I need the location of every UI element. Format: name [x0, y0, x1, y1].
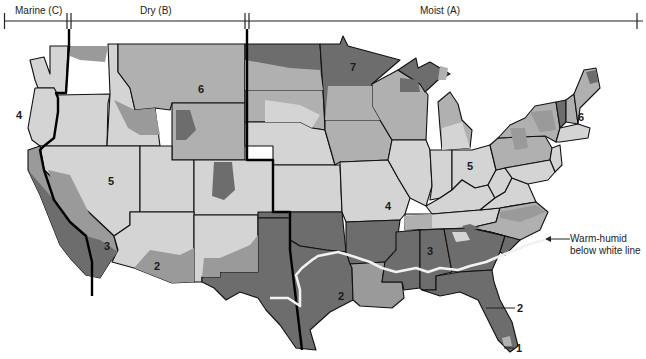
patch-e-washington — [70, 46, 108, 62]
state-montana — [118, 44, 245, 110]
zone-label-marine: Marine (C) — [15, 5, 62, 16]
zone-label-alabama: 3 — [427, 245, 433, 257]
zone-label-nevada: 5 — [108, 175, 114, 187]
zone-label-moist: Moist (A) — [420, 5, 460, 16]
zone-label-ohio: 5 — [467, 160, 473, 172]
zone-label-minnesota: 7 — [350, 61, 356, 73]
zone-label-texas: 2 — [338, 290, 344, 302]
state-iowa — [325, 120, 392, 165]
callout-label-1: 1 — [516, 342, 522, 354]
climate-header: Marine (C) Dry (B) Moist (A) — [4, 5, 643, 29]
warm-humid-annotation: Warm-humid below white line — [545, 233, 641, 256]
zone-label-so-cal: 3 — [104, 240, 110, 252]
patch-tn-west — [404, 214, 432, 230]
zone-label-montana: 6 — [198, 83, 204, 95]
callout-label-2: 2 — [517, 302, 523, 314]
state-kansas — [273, 165, 342, 212]
annotation-line-1: Warm-humid — [570, 233, 627, 244]
arrow-icon — [545, 236, 551, 242]
climate-zone-map: Marine (C) Dry (B) Moist (A) — [0, 0, 646, 359]
annotation-line-2: below white line — [570, 245, 641, 256]
zone-label-wa-or: 4 — [16, 109, 23, 121]
zone-label-dry: Dry (B) — [140, 5, 172, 16]
patch-wi-north — [400, 78, 420, 92]
zone-label-vermont: 6 — [578, 111, 584, 123]
state-washington — [30, 46, 68, 93]
zone-label-missouri: 4 — [385, 200, 392, 212]
patch-mn-south — [325, 86, 380, 120]
state-oregon — [28, 88, 110, 146]
zone-label-arizona: 2 — [154, 260, 160, 272]
